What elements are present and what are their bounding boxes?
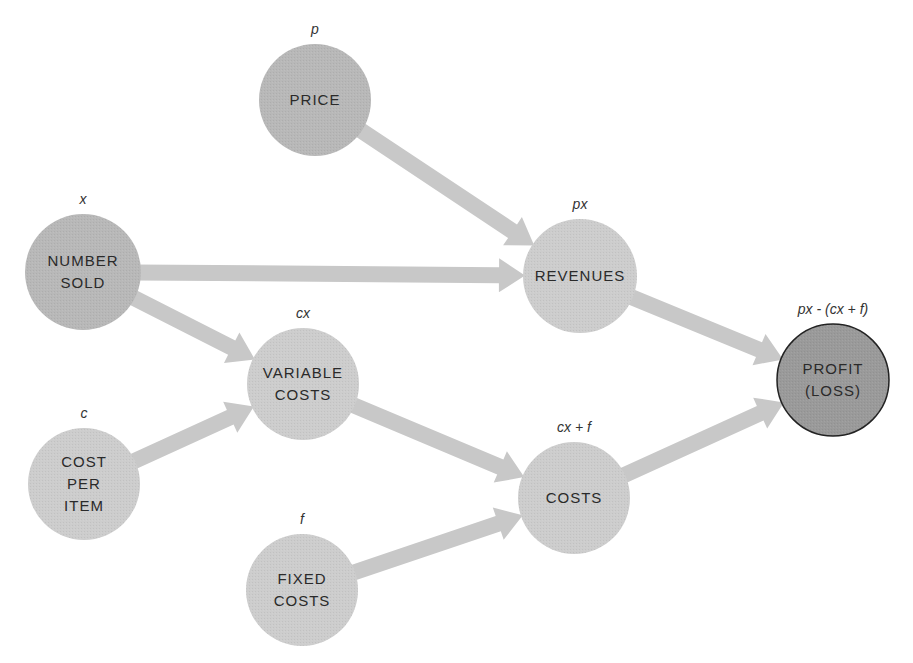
node-label: VARIABLE [263,364,343,381]
node-formula: cx + f [557,419,593,435]
node-label: COST [61,453,107,470]
node-profit: PROFIT(LOSS)px - (cx + f) [777,301,889,436]
node-label: PER [67,475,101,492]
node-label: COSTS [274,592,331,609]
node-cost-per-item: COSTPERITEMc [28,405,140,540]
node-formula: c [81,405,88,421]
node-label: ITEM [64,497,104,514]
node-texture [25,214,141,330]
arrow-cost-per-item-to-variable-costs [126,402,254,471]
node-revenues: REVENUESpx [523,196,637,333]
node-label: PROFIT [803,360,864,377]
node-label: REVENUES [535,267,626,284]
node-formula: px - (cx + f) [797,301,868,317]
arrow-costs-to-profit [616,398,784,485]
node-formula: x [79,191,88,207]
arrow-price-to-revenues [352,121,534,246]
node-label: PRICE [290,91,341,108]
node-formula: f [300,511,306,527]
node-texture [777,324,889,436]
node-label: FIXED [277,570,326,587]
node-label: (LOSS) [805,382,861,399]
node-label: COSTS [275,386,332,403]
node-label: COSTS [546,489,603,506]
nodes-layer: PRICEpNUMBERSOLDxREVENUESpxVARIABLECOSTS… [25,21,889,646]
node-formula: px [572,196,589,212]
arrow-revenues-to-profit [624,288,783,365]
node-number-sold: NUMBERSOLDx [25,191,141,330]
node-texture [247,328,359,440]
node-label: SOLD [61,274,106,291]
node-texture [246,534,358,646]
arrow-fixed-costs-to-costs [347,508,523,582]
influence-diagram: PRICEpNUMBERSOLDxREVENUESpxVARIABLECOSTS… [0,0,913,663]
node-label: NUMBER [47,252,118,269]
node-formula: cx [296,305,311,321]
node-formula: p [310,21,319,37]
node-fixed-costs: FIXEDCOSTSf [246,511,358,646]
arrow-number-sold-to-revenues [135,258,525,292]
arrow-variable-costs-to-costs [346,396,524,483]
edges-layer [126,121,784,582]
arrow-number-sold-to-variable-costs [126,289,255,363]
node-costs: COSTScx + f [518,419,630,554]
node-variable-costs: VARIABLECOSTScx [247,305,359,440]
node-price: PRICEp [259,21,371,156]
